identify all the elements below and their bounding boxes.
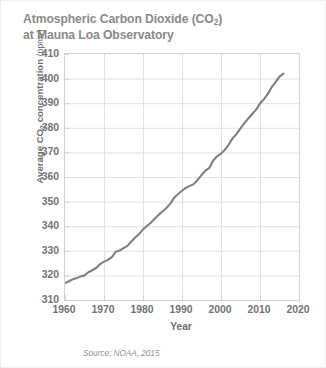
y-tick-400: 400: [15, 72, 59, 83]
chart-title: Atmospheric Carbon Dioxide (CO2) at Maun…: [23, 12, 303, 43]
chart-title-line-2: at Mauna Loa Observatory: [23, 28, 303, 43]
y-tick-380: 380: [15, 121, 59, 132]
chart-canvas: [65, 54, 299, 300]
x-axis-title: Year: [64, 321, 298, 332]
y-tick-350: 350: [15, 195, 59, 206]
source-note: Source: NOAA, 2015: [83, 349, 159, 358]
y-tick-310: 310: [15, 294, 59, 305]
x-tick-2020: 2020: [274, 304, 322, 315]
chart-title-line-1-text: Atmospheric Carbon Dioxide (CO: [23, 12, 214, 26]
plot-area: [64, 53, 300, 301]
chart-title-line-1-close: ): [218, 12, 222, 26]
y-tick-320: 320: [15, 269, 59, 280]
y-axis-tick-labels: 310320330340350360370380390400410: [11, 53, 59, 299]
y-tick-340: 340: [15, 220, 59, 231]
chart-title-line-1: Atmospheric Carbon Dioxide (CO2): [23, 12, 303, 28]
chart-title-subscript: 2: [214, 17, 219, 27]
chart-figure: Atmospheric Carbon Dioxide (CO2) at Maun…: [0, 0, 326, 368]
y-tick-390: 390: [15, 97, 59, 108]
x-axis-tick-labels: 1960197019801990200020102020: [64, 304, 298, 320]
y-tick-360: 360: [15, 171, 59, 182]
y-tick-330: 330: [15, 244, 59, 255]
y-tick-370: 370: [15, 146, 59, 157]
y-tick-410: 410: [15, 48, 59, 59]
